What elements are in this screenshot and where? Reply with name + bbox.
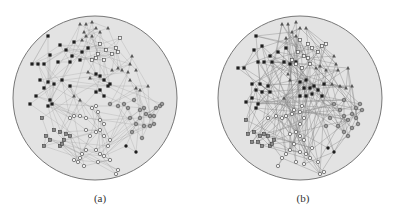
node-filled-square: [258, 82, 261, 85]
node-filled-square: [268, 54, 271, 57]
node-open-square: [296, 50, 299, 53]
node-gray-square: [270, 142, 273, 145]
node-gray-square: [244, 118, 247, 121]
node-open-circle: [302, 116, 305, 119]
node-filled-circle: [332, 150, 335, 153]
node-filled-square: [282, 60, 285, 63]
node-filled-square: [304, 94, 307, 97]
node-gray-square: [252, 130, 255, 133]
node-open-square: [306, 42, 309, 45]
node-filled-square: [322, 82, 325, 85]
node-filled-square: [308, 86, 311, 89]
node-gray-square: [258, 134, 261, 137]
node-gray-circle: [346, 118, 350, 122]
node-open-circle: [298, 150, 301, 153]
node-open-circle: [302, 138, 305, 141]
node-open-square: [316, 50, 319, 53]
node-gray-square: [256, 140, 259, 143]
node-filled-circle: [326, 146, 329, 149]
node-filled-square: [316, 88, 319, 91]
node-filled-square: [250, 82, 253, 85]
node-open-circle: [292, 142, 295, 145]
node-open-circle: [298, 122, 301, 125]
node-filled-square: [260, 90, 263, 93]
caption-b: (b): [283, 192, 323, 204]
node-filled-square: [298, 80, 301, 83]
node-open-circle: [294, 130, 297, 133]
node-open-square: [290, 58, 293, 61]
node-gray-circle: [328, 116, 332, 120]
node-open-circle: [284, 114, 287, 117]
node-open-circle: [304, 152, 307, 155]
network-graph-b: [0, 0, 394, 215]
node-gray-circle: [354, 116, 358, 120]
node-open-circle: [280, 116, 283, 119]
node-gray-circle: [338, 108, 342, 112]
node-filled-square: [254, 34, 257, 37]
node-open-circle: [280, 156, 283, 159]
node-filled-square: [320, 94, 323, 97]
node-gray-circle: [324, 124, 328, 128]
node-filled-square: [284, 46, 287, 49]
node-gray-square: [272, 138, 275, 141]
node-filled-square: [252, 48, 255, 51]
node-open-square: [298, 38, 301, 41]
node-open-square: [320, 44, 323, 47]
node-open-circle: [310, 146, 313, 149]
node-filled-square: [312, 84, 315, 87]
node-open-circle: [294, 160, 297, 163]
node-gray-circle: [350, 126, 354, 130]
node-gray-circle: [342, 98, 346, 102]
node-filled-square: [244, 100, 247, 103]
node-open-circle: [284, 152, 287, 155]
node-open-square: [306, 56, 309, 59]
node-filled-square: [302, 86, 305, 89]
node-gray-square: [266, 134, 269, 137]
node-gray-circle: [360, 108, 364, 112]
node-open-circle: [288, 132, 291, 135]
node-open-square: [302, 54, 305, 57]
node-gray-circle: [342, 130, 346, 134]
node-gray-square: [262, 132, 265, 135]
node-open-circle: [290, 112, 293, 115]
node-open-circle: [298, 110, 301, 113]
node-open-circle: [308, 156, 311, 159]
node-gray-square: [260, 144, 263, 147]
node-filled-square: [310, 92, 313, 95]
node-open-square: [308, 62, 311, 65]
node-gray-circle: [354, 106, 358, 110]
node-open-circle: [318, 172, 321, 175]
node-open-square: [300, 66, 303, 69]
node-filled-square: [268, 90, 271, 93]
node-filled-square: [254, 106, 257, 109]
node-open-square: [310, 46, 313, 49]
node-filled-square: [250, 96, 253, 99]
node-filled-square: [256, 60, 259, 63]
node-filled-square: [256, 102, 259, 105]
node-filled-square: [262, 60, 265, 63]
node-open-square: [324, 42, 327, 45]
node-gray-square: [246, 132, 249, 135]
node-filled-square: [242, 66, 245, 69]
node-gray-circle: [342, 114, 346, 118]
node-filled-square: [270, 60, 273, 63]
node-filled-square: [304, 78, 307, 81]
node-filled-square: [298, 94, 301, 97]
node-open-circle: [322, 170, 325, 173]
node-open-circle: [274, 114, 277, 117]
node-open-square: [294, 62, 297, 65]
node-gray-circle: [350, 112, 354, 116]
node-gray-square: [250, 140, 253, 143]
node-gray-circle: [356, 122, 360, 126]
node-open-circle: [316, 160, 319, 163]
node-gray-circle: [332, 102, 336, 106]
node-open-circle: [298, 134, 301, 137]
node-filled-square: [288, 62, 291, 65]
node-open-circle: [266, 116, 269, 119]
panel-b: (b): [0, 0, 197, 215]
node-open-circle: [292, 108, 295, 111]
node-open-circle: [288, 148, 291, 151]
node-filled-square: [254, 88, 257, 91]
node-filled-square: [276, 50, 279, 53]
node-gray-circle: [336, 124, 340, 128]
